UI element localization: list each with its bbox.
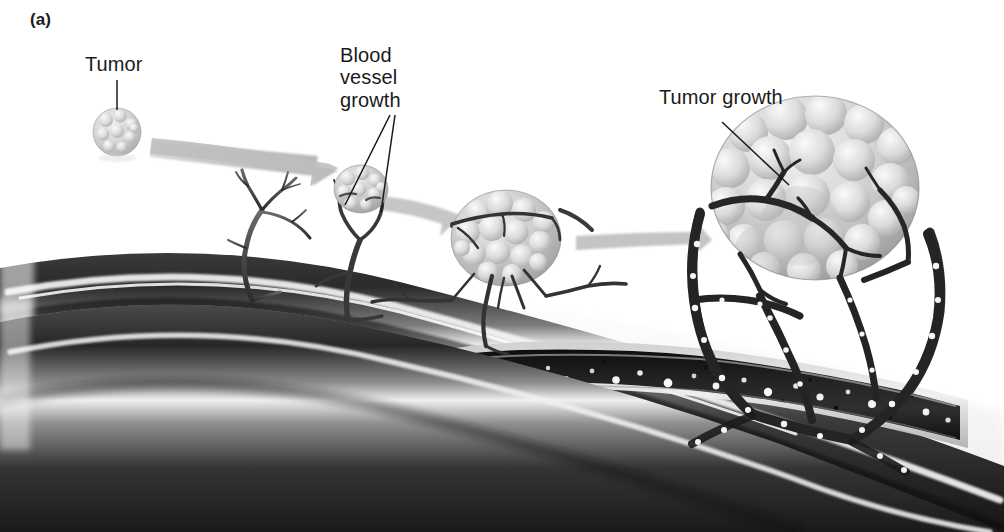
figure-panel-a: (a) Tumor Blood vessel growth Tumor grow… — [0, 0, 1004, 532]
angiogenesis-illustration — [0, 0, 1004, 532]
